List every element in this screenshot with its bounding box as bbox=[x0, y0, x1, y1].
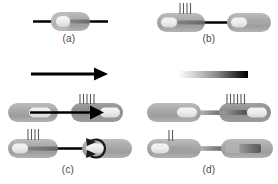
panel-label-c: (c) bbox=[48, 164, 88, 175]
capsule-right-inner-shaft bbox=[247, 21, 267, 25]
capsule-inner-shaft bbox=[70, 20, 90, 24]
panel-c-direction-arrow-graphic bbox=[0, 60, 139, 86]
figure-root: (a) (b) bbox=[0, 0, 278, 184]
panel-c-row1-graphic bbox=[0, 94, 139, 128]
panel-c: (c) bbox=[0, 60, 139, 184]
row1-bristles-right bbox=[80, 94, 94, 104]
panel-label-d: (d) bbox=[189, 164, 229, 175]
capsule-right-cap bbox=[231, 18, 247, 28]
row1-capsule-right-cap bbox=[247, 108, 267, 118]
row1-bristles-right bbox=[227, 94, 245, 104]
row1-capsule-right-inner-shaft bbox=[223, 110, 247, 115]
panel-d: (d) bbox=[139, 60, 278, 184]
row2-capsule-right-inner-shaft bbox=[239, 144, 261, 153]
row2-capsule-left-cap bbox=[12, 144, 28, 154]
panel-label-a: (a) bbox=[49, 33, 89, 44]
panel-b: (b) bbox=[139, 0, 278, 56]
panel-d-gradient-graphic bbox=[139, 60, 278, 86]
gradient-bar bbox=[178, 71, 248, 78]
row2-capsule-right-cap bbox=[225, 144, 241, 153]
capsule-left-cap bbox=[161, 18, 177, 28]
direction-arrow bbox=[31, 68, 108, 81]
panel-c-row2-graphic bbox=[0, 128, 139, 164]
panel-d-row2-graphic bbox=[139, 128, 278, 164]
row1-capsule-left-cap bbox=[177, 108, 197, 118]
row2-capsule-left-cap bbox=[151, 144, 169, 154]
capsule-left-inner-shaft bbox=[177, 20, 205, 24]
row2-capsule-left-inner-shaft bbox=[28, 147, 58, 151]
panel-d-row1-graphic bbox=[139, 94, 278, 128]
row2-bristles-left bbox=[28, 129, 39, 140]
bristles-left bbox=[180, 3, 191, 14]
row2-capsule-left-inner-shaft bbox=[169, 146, 191, 150]
panel-label-b: (b) bbox=[189, 33, 229, 44]
capsule-cap bbox=[56, 16, 70, 27]
panel-a: (a) bbox=[0, 0, 139, 56]
